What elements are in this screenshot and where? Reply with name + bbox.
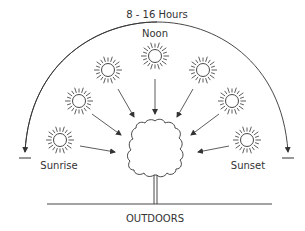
outdoors-label: OUTDOORS [126, 213, 184, 224]
sun-exposure-diagram: 8 - 16 Hours Noon Sunrise Sunset OUTDOOR… [0, 0, 305, 231]
arrow-sunrise [80, 146, 115, 152]
arrow-afternoon-low [191, 114, 219, 135]
sun-icon-noon [141, 43, 169, 70]
arrow-afternoon-high [177, 89, 193, 117]
sun-icon-sunset [233, 127, 261, 154]
sun-icon-afternoon-low [218, 88, 246, 115]
noon-label: Noon [142, 28, 168, 39]
tree-icon [127, 119, 183, 204]
arrow-sunset [198, 146, 229, 152]
arrow-morning-high [118, 89, 134, 117]
sunrise-label: Sunrise [40, 160, 77, 171]
tree-canopy [127, 119, 183, 176]
sun-icon-morning-high [94, 57, 122, 84]
sunset-label: Sunset [231, 160, 265, 171]
sun-icon-morning-low [65, 88, 93, 115]
sun-icon-afternoon-high [189, 57, 217, 84]
arrow-morning-low [92, 114, 121, 135]
sun-icon-sunrise [46, 127, 74, 154]
duration-label: 8 - 16 Hours [126, 9, 188, 20]
